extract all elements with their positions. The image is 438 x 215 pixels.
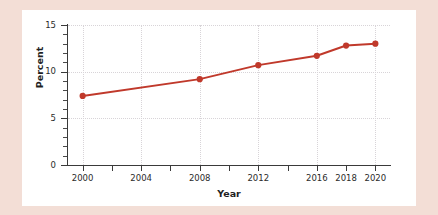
data-point-marker	[343, 42, 349, 48]
figure-root: 0510152000200420082012201620182020 Perce…	[0, 0, 438, 215]
series-line	[83, 44, 376, 96]
data-point-marker	[197, 76, 203, 82]
data-point-marker	[314, 53, 320, 59]
series-line-chart	[22, 10, 416, 206]
data-point-marker	[255, 62, 261, 68]
data-point-marker	[372, 41, 378, 47]
x-axis-label: Year	[67, 188, 391, 199]
chart-card: 0510152000200420082012201620182020 Perce…	[22, 10, 416, 206]
y-axis-label: Percent	[34, 28, 45, 108]
data-point-marker	[80, 93, 86, 99]
plot-wrap: 0510152000200420082012201620182020 Perce…	[22, 10, 416, 206]
